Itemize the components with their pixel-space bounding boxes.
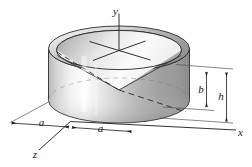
dimension-label-h: h [218, 90, 224, 102]
axis-label-z: z [32, 148, 38, 160]
cylinder-diagram: y x z a a b h [0, 0, 252, 167]
axis-label-y: y [112, 5, 118, 17]
axis-label-x: x [237, 126, 243, 138]
dimension-label-b: b [198, 83, 204, 95]
dimension-label-a-right: a [98, 122, 104, 134]
figure-container: y x z a a b h [0, 0, 252, 167]
dimension-label-a-left: a [39, 116, 45, 128]
leader-line-base [160, 118, 233, 123]
